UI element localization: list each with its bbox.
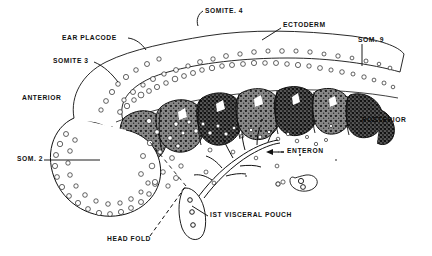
label-first-visceral-pouch: IST VISCERAL POUCH	[210, 212, 292, 219]
label-anterior: ANTERIOR	[22, 95, 61, 102]
label-ear-placode: EAR PLACODE	[62, 35, 117, 42]
label-enteron: ENTERON	[287, 148, 324, 155]
enteron-arrowhead	[266, 149, 273, 155]
label-somite-3: SOMITE 3	[53, 58, 89, 65]
somite-7-block	[274, 87, 318, 136]
label-som-9: SOM. 9	[358, 37, 384, 44]
label-posterior: POSTERIOR	[362, 117, 406, 124]
leader-somite-4	[197, 11, 203, 26]
visceral-pouch	[179, 188, 206, 240]
illustration-canvas: SOMITE. 4 ECTODERM SOM. 9 EAR PLACODE SO…	[0, 0, 432, 256]
label-somite-4: SOMITE. 4	[205, 8, 243, 15]
label-head-fold: HEAD FOLD	[107, 236, 151, 243]
label-som-2: SOM. 2	[17, 156, 43, 163]
leader-enteron	[266, 149, 284, 155]
label-ectoderm: ECTODERM	[283, 22, 326, 29]
somite-5-block	[197, 93, 243, 145]
